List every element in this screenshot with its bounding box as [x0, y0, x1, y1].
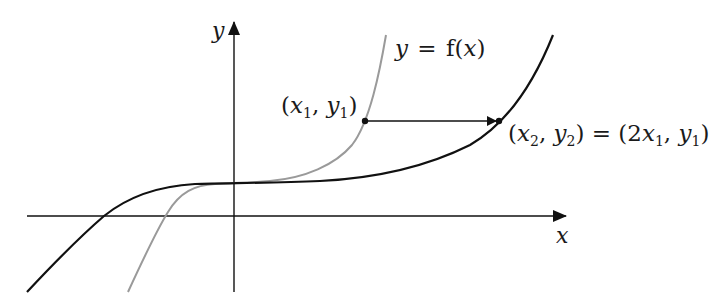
function-diagram: y x y = f(x) (x1, y1) (x2, y2) = (2x1, y… — [0, 0, 727, 302]
point-x2-y2 — [496, 118, 502, 124]
curve-label: y = f(x) — [394, 35, 485, 61]
x-axis-label: x — [556, 223, 569, 248]
point1-label: (x1, y1) — [281, 92, 357, 121]
gray-curve-fx — [128, 35, 386, 292]
y-axis-label: y — [211, 18, 225, 43]
black-curve — [27, 35, 553, 292]
point-x1-y1 — [362, 118, 368, 124]
point2-label: (x2, y2) = (2x1, y1) — [508, 120, 709, 149]
